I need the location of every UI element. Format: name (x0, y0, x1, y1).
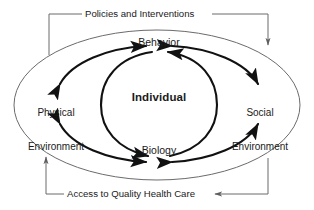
physical-environment-line-1: Physical (14, 107, 98, 118)
node-label-individual: Individual (117, 91, 201, 104)
behavior-biology-cycle-arrows (101, 52, 217, 156)
flow-label-policies-and-interventions: Policies and Interventions (82, 8, 197, 19)
node-label-biology: Biology (124, 145, 194, 157)
node-label-behavior: Behavior (122, 37, 196, 49)
node-label-social-environment: Social Environment (218, 85, 302, 175)
physical-environment-line-2: Environment (14, 141, 98, 152)
social-environment-line-1: Social (218, 107, 302, 118)
flow-label-access-to-quality-health-care: Access to Quality Health Care (64, 188, 198, 199)
node-label-physical-environment: Physical Environment (14, 85, 98, 175)
socio-ecological-model-diagram: Behavior Individual Biology Physical Env… (0, 0, 314, 210)
social-behavior-arrow (172, 46, 258, 84)
policies-flow-connector (49, 14, 268, 55)
physical-behavior-arrow (60, 46, 146, 84)
social-environment-line-2: Environment (218, 141, 302, 152)
